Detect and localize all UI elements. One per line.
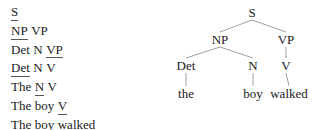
tree-node-boy: boy bbox=[243, 86, 263, 101]
tree-node-vp: VP bbox=[278, 32, 295, 47]
tree-node-np: NP bbox=[212, 32, 229, 47]
tree-edge bbox=[220, 47, 253, 58]
tree-edge bbox=[286, 73, 289, 86]
tree-node-det: Det bbox=[177, 58, 196, 73]
tree-node-v: V bbox=[281, 58, 291, 73]
tree-node-n: N bbox=[248, 58, 258, 73]
tree-node-s: S bbox=[248, 5, 255, 20]
tree-edge bbox=[220, 20, 252, 32]
tree-node-walked: walked bbox=[270, 86, 308, 101]
tree-node-the: the bbox=[178, 86, 194, 101]
tree-edge bbox=[252, 20, 286, 32]
tree-edge bbox=[186, 47, 220, 58]
parse-tree: SNPVPDetNVtheboywalked bbox=[0, 0, 317, 130]
